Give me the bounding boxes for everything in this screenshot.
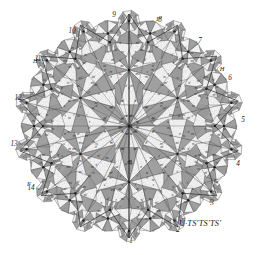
cell-label: τ′ xyxy=(140,81,142,85)
cell-label: τυ′ xyxy=(152,117,156,121)
outer-label-3: 3 xyxy=(209,199,214,207)
cell-label: συ′ xyxy=(155,201,159,205)
cell-label: υ′ xyxy=(40,85,42,89)
cell-label: ττ′ xyxy=(134,147,137,151)
cell-label: υ′ xyxy=(152,130,154,134)
cell-label: στ′ xyxy=(129,114,133,118)
cell-label: τ′ xyxy=(137,174,139,178)
cell-label: σσ′ xyxy=(42,153,46,157)
cell-label: σ′ xyxy=(104,129,107,133)
cell-label: υυ′ xyxy=(43,78,47,82)
cell-label: σσ′ xyxy=(178,114,182,118)
cell-label: τυ′ xyxy=(136,187,140,191)
cell-label: στ′ xyxy=(157,37,161,41)
cell-label: υ′ xyxy=(61,92,63,96)
cell-label: ττ′ xyxy=(64,132,67,136)
cell-label: υυ′ xyxy=(223,127,227,131)
cell-label: σσ′ xyxy=(164,81,168,85)
figure-caption: U·TS′TS′TS′ xyxy=(179,219,221,228)
cell-label: ττ′ xyxy=(88,126,91,130)
outer-label-13: 13 xyxy=(10,140,18,148)
cell-label: υ′ xyxy=(110,140,112,144)
outer-label-7: 7 xyxy=(198,37,202,45)
cell-label: σ′ xyxy=(172,185,175,189)
cell-label: στυ xyxy=(156,209,161,213)
cell-label: στ′ xyxy=(163,171,167,175)
cell-label: υυ′ xyxy=(115,165,119,169)
cell-label: στ′ xyxy=(145,75,149,79)
cell-label: στυ xyxy=(63,59,68,63)
outer-label-1: 1 xyxy=(129,237,133,245)
cell-label: υυ′ xyxy=(118,187,122,191)
cell-label: σ′ xyxy=(179,66,182,70)
cell-label: υ′ xyxy=(63,142,65,146)
cell-label: σ′ xyxy=(144,58,147,62)
cell-label: τυ′ xyxy=(97,154,101,158)
cell-label: τυ′ xyxy=(194,160,198,164)
cell-label: τυ′ xyxy=(198,94,202,98)
cell-label: υυ′ xyxy=(145,105,149,109)
cell-label: στ′ xyxy=(138,213,142,217)
cell-label: ττ′ xyxy=(212,78,215,82)
cell-label: υ′ xyxy=(104,183,106,187)
cell-label: τ′ xyxy=(119,121,121,125)
cell-label: τυ′ xyxy=(83,61,87,65)
cell-label: σ′ xyxy=(145,141,148,145)
cell-label: στ′ xyxy=(151,68,155,72)
cell-label: στ′ xyxy=(77,132,81,136)
cell-label: τυ′ xyxy=(121,147,125,151)
cell-label: σσ′ xyxy=(109,171,113,175)
cell-label: τυ′ xyxy=(178,84,182,88)
cell-label: υ′ xyxy=(167,120,169,124)
cell-label: υ′ xyxy=(158,154,160,158)
cell-label: σσ′ xyxy=(98,209,102,213)
cell-label: στυ xyxy=(66,165,71,169)
cell-label: συ′ xyxy=(125,114,129,118)
cell-label: συ′ xyxy=(205,150,209,154)
cell-label: συ′ xyxy=(88,156,92,160)
cell-label: σ′ xyxy=(61,86,64,90)
cell-label: στ′ xyxy=(64,187,68,191)
cell-label: συ′ xyxy=(84,193,88,197)
cell-label: σσ′ xyxy=(191,59,195,63)
cell-label: τ′ xyxy=(80,105,82,109)
cell-label: στυ xyxy=(37,133,42,137)
cell-label: στυ xyxy=(133,130,138,134)
cell-label: υ′ xyxy=(111,159,113,163)
cell-label: συ′ xyxy=(182,147,186,151)
cell-label: σ′ xyxy=(57,153,60,157)
cell-label: σ′ xyxy=(95,145,98,149)
cell-label: στυ xyxy=(111,188,116,192)
cell-label: στυ xyxy=(169,113,174,117)
cell-label: τυ′ xyxy=(77,180,81,184)
letter-label: H′ xyxy=(32,57,40,64)
cell-label: ττ′ xyxy=(67,81,70,85)
cell-label: σσ′ xyxy=(50,75,54,79)
cell-label: ττ′ xyxy=(65,51,68,55)
cell-label: τ′ xyxy=(119,205,121,209)
cell-label: στυ xyxy=(78,200,83,204)
cell-label: σσ′ xyxy=(187,116,191,120)
cell-label: ττ′ xyxy=(71,200,74,204)
cell-label: στυ xyxy=(136,72,141,76)
cell-label: τ′ xyxy=(187,181,189,185)
cell-label: στ′ xyxy=(79,47,83,51)
cell-label: σ′ xyxy=(187,147,190,151)
cell-label: υ′ xyxy=(103,31,105,35)
letter-label: F xyxy=(26,180,31,187)
cell-label: υυ′ xyxy=(110,29,114,33)
cell-label: στ′ xyxy=(169,134,173,138)
cell-label: στυ xyxy=(79,141,84,145)
cell-label: στ′ xyxy=(68,130,72,134)
cell-label: τ′ xyxy=(73,99,75,103)
cell-label: συ′ xyxy=(68,65,72,69)
cell-label: τ′ xyxy=(176,88,178,92)
cell-label: σσ′ xyxy=(217,133,221,137)
cell-label: στ′ xyxy=(37,113,41,117)
cell-label: συ′ xyxy=(79,159,83,163)
cell-label: στ′ xyxy=(204,171,208,175)
cell-label: υυ′ xyxy=(103,117,107,121)
cell-label: σσ′ xyxy=(103,178,107,182)
cell-label: τ′ xyxy=(100,45,102,49)
cell-label: συ′ xyxy=(45,133,49,137)
